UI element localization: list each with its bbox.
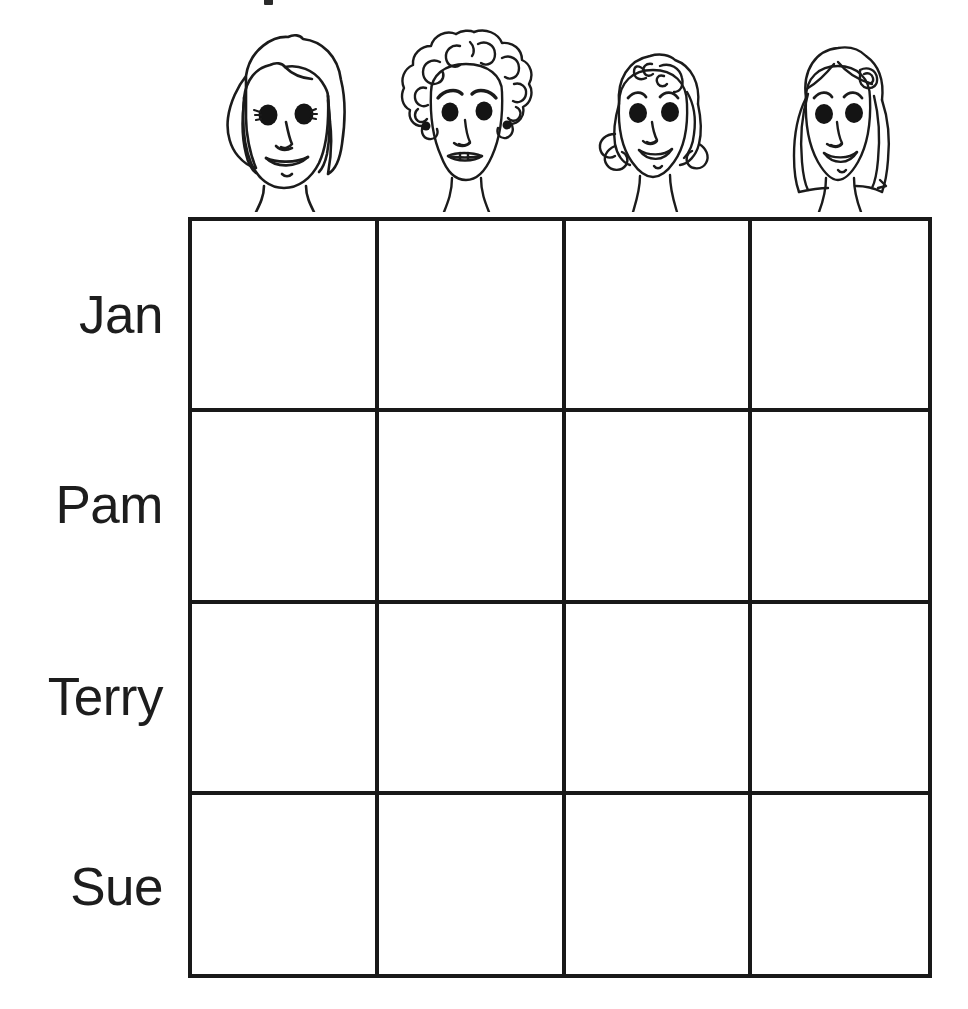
grid-cell-sue-2[interactable] <box>379 795 562 978</box>
grid-cell-jan-2[interactable] <box>379 221 562 408</box>
grid-cell-sue-4[interactable] <box>752 795 932 978</box>
cropped-text-mark-icon <box>264 0 273 5</box>
grid-vline-right <box>928 217 932 978</box>
grid-cell-terry-4[interactable] <box>752 604 932 791</box>
grid-cell-pam-2[interactable] <box>379 412 562 600</box>
grid-cell-terry-3[interactable] <box>566 604 748 791</box>
grid-cell-sue-3[interactable] <box>566 795 748 978</box>
face-curly-hair-earrings-icon <box>374 22 560 212</box>
column-header-3[interactable] <box>560 22 746 212</box>
row-label-jan: Jan <box>0 288 163 341</box>
grid-cell-pam-1[interactable] <box>192 412 375 600</box>
grid-vline-2 <box>562 217 566 978</box>
grid-cell-jan-3[interactable] <box>566 221 748 408</box>
grid-hline-1 <box>188 408 932 412</box>
grid-vline-left <box>188 217 192 978</box>
grid-cell-jan-4[interactable] <box>752 221 932 408</box>
face-wavy-hair-icon <box>560 22 746 212</box>
grid-cell-terry-1[interactable] <box>192 604 375 791</box>
grid-hline-3 <box>188 791 932 795</box>
grid-hline-bottom <box>188 974 932 978</box>
column-header-2[interactable] <box>374 22 560 212</box>
row-label-terry: Terry <box>0 670 163 723</box>
column-header-1[interactable] <box>188 22 374 212</box>
grid-cell-jan-1[interactable] <box>192 221 375 408</box>
column-header-4[interactable] <box>746 22 932 212</box>
face-straight-bob-hair-icon <box>188 22 374 212</box>
worksheet-page: Jan Pam Terry Sue <box>0 0 968 1009</box>
row-label-sue: Sue <box>0 860 163 913</box>
answer-grid <box>188 217 932 978</box>
grid-vline-1 <box>375 217 379 978</box>
grid-hline-top <box>188 217 932 221</box>
column-header-row <box>188 22 932 212</box>
row-label-pam: Pam <box>0 478 163 531</box>
grid-cell-pam-3[interactable] <box>566 412 748 600</box>
grid-hline-2 <box>188 600 932 604</box>
face-long-hair-bow-icon <box>746 22 932 212</box>
grid-vline-3 <box>748 217 752 978</box>
grid-cell-pam-4[interactable] <box>752 412 932 600</box>
grid-cell-sue-1[interactable] <box>192 795 375 978</box>
grid-cell-terry-2[interactable] <box>379 604 562 791</box>
